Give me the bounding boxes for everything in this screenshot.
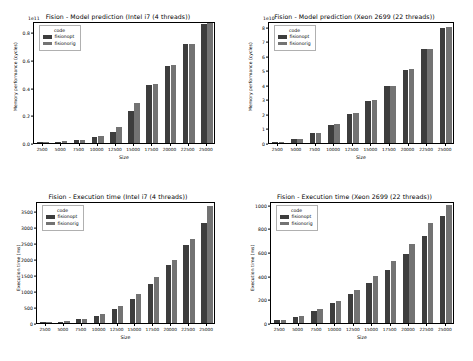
x-axis-tick-label: 5000 — [289, 327, 307, 332]
bar-fisionopt — [183, 245, 188, 323]
x-axis-tick-label: 20000 — [161, 327, 179, 332]
y-axis-tick-label: 2 — [239, 112, 265, 117]
bar-fisionopt — [146, 85, 151, 143]
legend-label: fisionorig — [290, 41, 311, 47]
y-axis-exponent-label: 1e10 — [263, 16, 275, 21]
legend-label: fisionopt — [58, 214, 78, 220]
x-axis-tick-label: 5000 — [51, 147, 69, 152]
chart-title: Fision - Execution time (Xeon 2699 (22 t… — [236, 193, 473, 201]
y-axis-tick-mark — [31, 116, 33, 117]
x-axis-tick-label: 12500 — [108, 327, 126, 332]
y-axis-label: Execution time (ms) — [16, 245, 21, 291]
x-axis-tick-mark — [188, 144, 189, 146]
legend-item: fisionorig — [46, 221, 79, 227]
x-axis-tick-label: 20000 — [399, 327, 417, 332]
x-axis-tick-mark — [134, 324, 135, 326]
y-axis-tick-mark — [266, 100, 268, 101]
x-axis-tick-label: 2500 — [270, 327, 288, 332]
legend-label: fisionorig — [58, 221, 79, 227]
bar-fisionorig — [446, 27, 452, 143]
legend-swatch-fisionorig — [278, 42, 287, 45]
y-axis-tick-mark — [34, 275, 36, 276]
x-axis-tick-mark — [206, 144, 207, 146]
x-axis-tick-mark — [81, 324, 82, 326]
x-axis-tick-label: 17500 — [142, 147, 160, 152]
y-axis-tick-mark — [266, 115, 268, 116]
x-axis-tick-label: 7500 — [72, 327, 90, 332]
legend-title: code — [289, 28, 311, 33]
chart-legend: codefisionoptfisionorig — [42, 205, 84, 231]
y-axis-tick-mark — [34, 211, 36, 212]
bar-fisionopt — [272, 142, 278, 143]
x-axis-tick-mark — [389, 144, 390, 146]
y-axis-tick-label: 1000 — [241, 203, 267, 208]
x-axis-tick-mark — [408, 324, 409, 326]
legend-swatch-fisionorig — [46, 222, 55, 225]
bar-fisionopt — [422, 236, 428, 323]
bar-fisionopt — [183, 44, 188, 143]
bar-fisionorig — [46, 322, 51, 323]
y-axis-tick-mark — [34, 259, 36, 260]
legend-item: fisionopt — [280, 214, 313, 220]
x-axis-tick-label: 7500 — [70, 147, 88, 152]
bar-fisionopt — [58, 322, 63, 323]
bar-fisionopt — [128, 111, 133, 143]
x-axis-tick-mark — [426, 144, 427, 146]
figure-canvas: Fision - Model prediction (Intel i7 (4 t… — [0, 0, 473, 361]
x-axis-tick-mark — [45, 324, 46, 326]
bar-fisionorig — [190, 239, 195, 323]
y-axis-tick-label: 3500 — [7, 209, 33, 214]
x-axis-tick-label: 25000 — [197, 327, 215, 332]
y-axis-tick-label: 200 — [241, 298, 267, 303]
x-axis-tick-mark — [133, 144, 134, 146]
x-axis-tick-mark — [60, 144, 61, 146]
y-axis-tick-mark — [266, 42, 268, 43]
bar-fisionorig — [134, 103, 139, 143]
y-axis-tick-mark — [34, 324, 36, 325]
y-axis-tick-mark — [268, 253, 270, 254]
x-axis-tick-label: 7500 — [306, 147, 324, 152]
x-axis-label: Size — [270, 335, 454, 340]
x-axis-tick-mark — [79, 144, 80, 146]
legend-item: fisionopt — [278, 34, 311, 40]
x-axis-tick-mark — [315, 144, 316, 146]
x-axis-tick-label: 12500 — [344, 327, 362, 332]
bar-fisionopt — [403, 70, 409, 143]
x-axis-tick-label: 20000 — [161, 147, 179, 152]
y-axis-tick-mark — [268, 205, 270, 206]
bar-fisionopt — [384, 86, 390, 143]
x-axis-tick-label: 17500 — [381, 327, 399, 332]
x-axis-tick-label: 15000 — [362, 327, 380, 332]
y-axis-tick-label: 0.2 — [4, 114, 30, 119]
x-axis-tick-label: 2500 — [268, 147, 286, 152]
bar-fisionorig — [43, 142, 48, 143]
y-axis-tick-mark — [31, 33, 33, 34]
chart-legend: codefisionoptfisionorig — [39, 25, 81, 51]
x-axis-tick-label: 22500 — [179, 327, 197, 332]
x-axis-tick-label: 25000 — [436, 327, 454, 332]
bar-fisionopt — [365, 101, 371, 143]
y-axis-tick-mark — [31, 60, 33, 61]
bar-fisionorig — [446, 205, 452, 323]
legend-label: fisionopt — [290, 34, 310, 40]
x-axis-tick-mark — [206, 324, 207, 326]
y-axis-exponent-label: 1e11 — [28, 16, 40, 21]
y-axis-tick-label: 500 — [7, 305, 33, 310]
bar-fisionorig — [409, 244, 415, 323]
x-axis-tick-mark — [316, 324, 317, 326]
y-axis-tick-mark — [268, 276, 270, 277]
y-axis-tick-label: 0 — [239, 142, 265, 147]
x-axis-tick-mark — [97, 144, 98, 146]
x-axis-tick-mark — [63, 324, 64, 326]
bar-fisionorig — [207, 23, 212, 143]
bar-fisionorig — [82, 319, 87, 323]
x-axis-tick-label: 25000 — [436, 147, 454, 152]
bar-fisionorig — [317, 309, 323, 323]
y-axis-tick-mark — [266, 85, 268, 86]
y-axis-tick-mark — [266, 129, 268, 130]
bar-fisionorig — [80, 140, 85, 143]
y-axis-tick-mark — [266, 56, 268, 57]
legend-swatch-fisionopt — [280, 215, 289, 218]
bar-fisionopt — [366, 283, 372, 323]
bar-fisionorig — [427, 49, 433, 143]
